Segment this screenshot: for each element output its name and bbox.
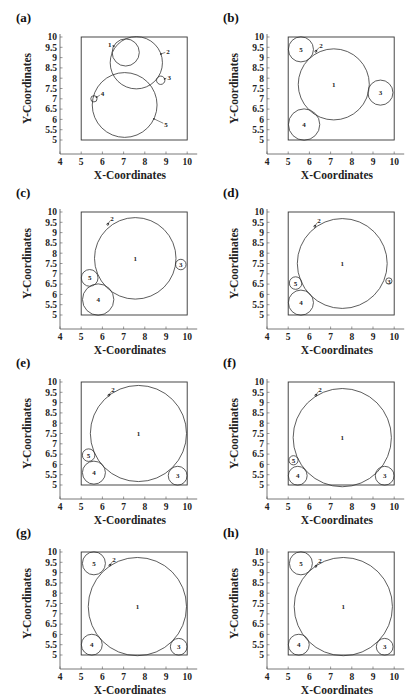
circle-label: 4 [302,121,306,129]
circle-label: 5 [87,452,91,460]
y-tick-label: 7 [52,609,57,619]
circle-outline [157,76,165,84]
y-tick-label: 5.5 [252,640,264,650]
y-tick-label: 8.5 [45,63,57,73]
x-tick-label: 4 [265,157,270,167]
circle-label: 4 [92,469,96,477]
circle-label: 1 [342,603,346,611]
panel-label: (g) [16,525,31,540]
y-tick-label: 7.5 [252,84,264,94]
y-tick-label: 5.5 [45,125,57,135]
x-tick-label: 7 [121,502,126,512]
y-tick-label: 5 [52,650,57,660]
x-tick-label: 10 [389,672,399,682]
y-tick-label: 7 [259,269,264,279]
circle-label: 5 [92,560,96,568]
y-tick-label: 7 [259,609,264,619]
circle-5: 5 [289,456,298,465]
circle-outline [112,39,139,66]
panel-plot: (b)55.566.577.588.599.51045678910X-Coord… [207,0,414,172]
panel-label: (f) [223,355,236,370]
circle-2: 2 [108,386,115,397]
panel-label: (a) [16,10,31,25]
arrow-head [107,223,109,225]
y-tick-label: 7 [259,94,264,104]
panel-plot: (a)55.566.577.588.599.51045678910X-Coord… [0,0,207,172]
circle-3: 3 [375,466,394,485]
container-box [81,552,187,655]
circle-label: 2 [318,386,322,394]
x-tick-label: 10 [182,672,192,682]
y-tick-label: 5.5 [45,300,57,310]
circle-label: 3 [179,261,183,269]
circle-4: 4 [288,634,309,655]
y-tick-label: 6.5 [45,449,57,459]
panel-plot: (c)55.566.577.588.599.51045678910X-Coord… [0,175,207,347]
circle-label: 4 [297,641,301,649]
circle-3: 3 [168,466,187,485]
circle-1: 1 [90,385,186,481]
leader-line [154,119,163,123]
y-tick-label: 5 [52,480,57,490]
y-tick-label: 5.5 [252,125,264,135]
x-tick-label: 10 [389,502,399,512]
y-tick-label: 9 [259,398,264,408]
y-tick-label: 5.5 [45,470,57,480]
x-tick-label: 8 [142,672,147,682]
circle-label: 1 [341,260,345,268]
circle-label: 1 [332,81,336,89]
y-tick-label: 10 [255,377,265,387]
circle-label: 5 [299,560,303,568]
circle-label: 3 [176,472,180,480]
x-tick-label: 6 [307,502,312,512]
panel-label: (b) [223,10,239,25]
y-tick-label: 7.5 [45,429,57,439]
circle-4: 4 [82,284,113,315]
circle-1: 1 [88,557,186,655]
y-tick-label: 10 [48,207,58,217]
y-tick-label: 6.5 [252,104,264,114]
x-tick-label: 4 [265,332,270,342]
circle-outline [92,73,157,138]
circle-label: 3 [177,643,181,651]
circle-4: 4 [288,290,313,315]
container-box [81,382,187,485]
y-tick-label: 7 [52,94,57,104]
y-tick-label: 9 [52,568,57,578]
y-tick-label: 5.5 [252,300,264,310]
y-tick-label: 5.5 [45,640,57,650]
y-tick-label: 8.5 [252,408,264,418]
x-tick-label: 7 [121,157,126,167]
x-tick-label: 9 [371,157,376,167]
circle-5: 5 [289,277,302,290]
y-tick-label: 6.5 [45,279,57,289]
x-tick-label: 8 [349,157,354,167]
y-tick-label: 8.5 [45,578,57,588]
circle-1: 1 [108,39,139,66]
x-tick-label: 6 [307,332,312,342]
y-tick-label: 8 [259,589,264,599]
circle-1: 1 [293,389,391,487]
y-tick-label: 6 [259,460,264,470]
circle-3: 3 [376,638,393,655]
x-tick-label: 6 [307,672,312,682]
circle-label: 2 [166,48,170,56]
circle-4: 4 [81,634,102,655]
circle-2: 2 [107,215,114,226]
x-tick-label: 7 [328,332,333,342]
y-tick-label: 6 [52,290,57,300]
circle-label: 3 [383,643,387,651]
y-tick-label: 10 [255,32,265,42]
x-tick-label: 7 [121,672,126,682]
x-tick-label: 8 [142,332,147,342]
circle-label: 2 [110,215,114,223]
x-tick-label: 5 [79,502,84,512]
x-tick-label: 9 [371,502,376,512]
x-tick-label: 4 [265,672,270,682]
panel-plot: (f)55.566.577.588.599.51045678910X-Coord… [207,345,414,517]
y-tick-label: 10 [48,32,58,42]
y-tick-label: 8 [259,419,264,429]
y-tick-label: 6 [259,115,264,125]
arrow-head [164,78,166,80]
y-tick-label: 8.5 [252,238,264,248]
